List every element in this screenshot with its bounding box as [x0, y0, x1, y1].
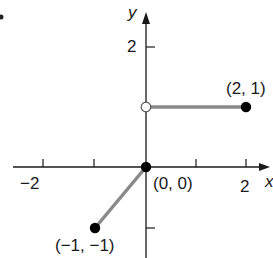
point-label-0-0: (0, 0)	[153, 175, 193, 192]
x-tick-label-2: 2	[240, 178, 249, 195]
open-point-0-1	[141, 102, 151, 112]
piecewise-graph	[0, 0, 273, 258]
y-axis-arrow-icon	[142, 12, 150, 24]
segment-diagonal	[95, 167, 146, 228]
bullet-marker	[0, 15, 4, 20]
closed-point-2-1	[241, 102, 251, 112]
y-tick-label-2: 2	[127, 38, 136, 55]
point-label-2-1: (2, 1)	[226, 80, 266, 97]
y-axis-label: y	[128, 4, 137, 21]
x-tick-label-neg2: −2	[20, 175, 39, 192]
closed-point-neg1-neg1	[90, 223, 100, 233]
point-label-neg1-neg1: (−1, −1)	[55, 237, 115, 254]
x-axis-label: x	[265, 173, 273, 190]
x-axis-arrow-icon	[259, 163, 270, 171]
closed-point-0-0	[141, 162, 151, 172]
